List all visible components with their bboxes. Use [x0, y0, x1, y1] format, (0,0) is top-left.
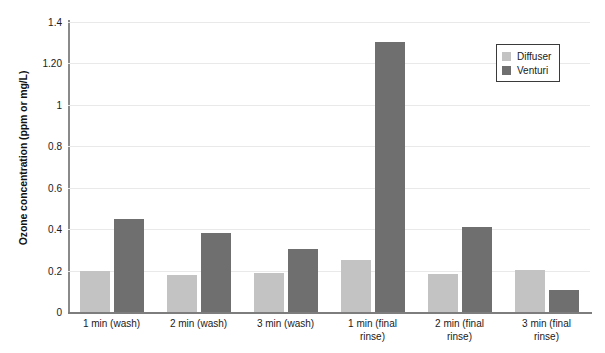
bar-diffuser [515, 270, 545, 312]
bar-group [155, 22, 242, 312]
x-tick-label-line: 3 min (final [503, 318, 590, 331]
x-tick-label-line: rinse) [329, 331, 416, 344]
bar-diffuser [428, 274, 458, 312]
y-tick-label: 0 [22, 307, 62, 318]
bar-chart-figure: Ozone concentration (ppm or mg/L) 1.41.2… [0, 0, 605, 353]
x-tick-label-line: 2 min (final [416, 318, 503, 331]
bar-venturi [462, 227, 492, 312]
bar-venturi [375, 42, 405, 312]
bar-venturi [288, 249, 318, 312]
x-tick-label-line: 1 min (final [329, 318, 416, 331]
legend-item: Venturi [502, 63, 551, 77]
legend-item: Diffuser [502, 49, 551, 63]
x-tick-label: 2 min (finalrinse) [416, 318, 503, 343]
x-tick-label-line: 1 min (wash) [68, 318, 155, 331]
x-tick-label-line: 3 min (wash) [242, 318, 329, 331]
bar-group [242, 22, 329, 312]
x-tick-label-line: 2 min (wash) [155, 318, 242, 331]
x-tick-label-line: rinse) [503, 331, 590, 344]
legend-label: Diffuser [517, 51, 551, 62]
x-tick-label-line: rinse) [416, 331, 503, 344]
legend-swatch-icon [502, 52, 511, 61]
y-tick-label: 1.4 [22, 17, 62, 28]
x-tick-label: 2 min (wash) [155, 318, 242, 331]
y-axis-title: Ozone concentration (ppm or mg/L) [17, 43, 29, 273]
bar-group [68, 22, 155, 312]
x-tick-label: 3 min (wash) [242, 318, 329, 331]
legend-label: Venturi [517, 65, 548, 76]
bar-venturi [549, 290, 579, 312]
bar-group [329, 22, 416, 312]
x-axis-line [68, 312, 592, 314]
bar-diffuser [254, 273, 284, 312]
x-tick-label: 3 min (finalrinse) [503, 318, 590, 343]
bar-venturi [114, 219, 144, 312]
x-tick-label: 1 min (finalrinse) [329, 318, 416, 343]
bar-group [416, 22, 503, 312]
bar-diffuser [341, 260, 371, 312]
bar-diffuser [167, 275, 197, 312]
bar-venturi [201, 233, 231, 312]
chart-legend: DiffuserVenturi [496, 44, 560, 82]
legend-swatch-icon [502, 66, 511, 75]
bar-diffuser [80, 271, 110, 312]
x-tick-label: 1 min (wash) [68, 318, 155, 331]
